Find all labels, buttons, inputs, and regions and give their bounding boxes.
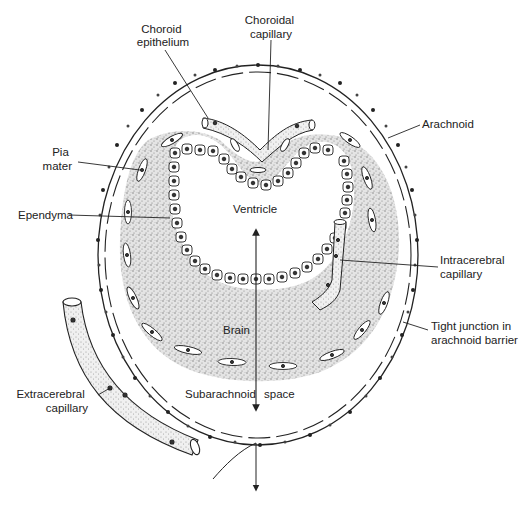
label-subarachnoid: Subarachnoid [185, 388, 256, 400]
label-extracerebral-capillary: Extracerebral capillary [16, 388, 88, 414]
label-ependyma: Ependyma [18, 209, 74, 221]
label-arachnoid: Arachnoid [422, 118, 474, 130]
label-intracerebral-capillary: Intracerebral capillary [440, 254, 508, 280]
diagram-canvas: Choroid epithelium Choroidal capillary A… [0, 0, 530, 505]
label-space: space [264, 388, 295, 400]
label-choroidal-capillary: Choroidal capillary [245, 14, 297, 40]
label-pia-mater: Pia mater [43, 146, 73, 172]
label-choroid-epithelium: Choroid epithelium [137, 23, 189, 48]
outflow-arrow [213, 443, 256, 488]
label-ventricle: Ventricle [233, 203, 277, 215]
label-tight-junction: Tight junction in arachnoid barrier [431, 320, 518, 346]
label-brain: Brain [223, 324, 250, 336]
